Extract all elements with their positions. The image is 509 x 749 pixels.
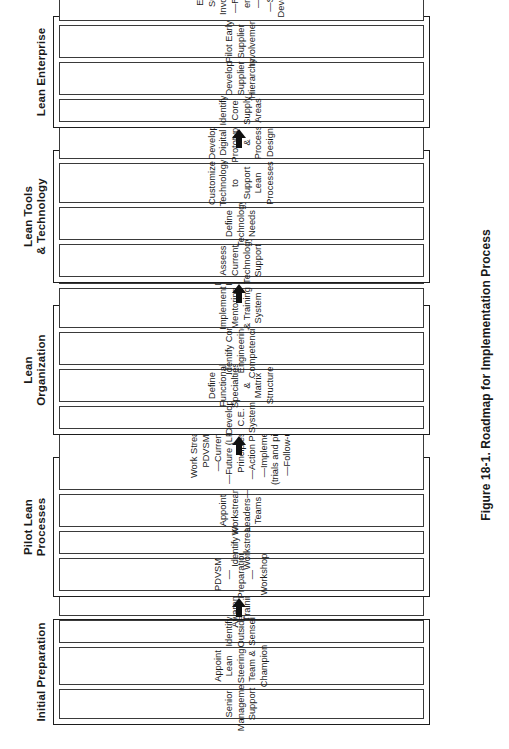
stage-label-lean-enterprise: Lean Enterprise bbox=[20, 16, 53, 128]
task-box[interactable]: Pilot Early Supplier Involvement bbox=[59, 25, 424, 58]
stage-pilot-lean-processes: Pilot Lean Processes PDVSM —Preparation … bbox=[20, 457, 430, 597]
stage-initial-preparation: Initial Preparation Senior Management Su… bbox=[20, 619, 430, 725]
task-box-label: Customize Technology to Support Lean Pro… bbox=[206, 159, 276, 206]
task-box[interactable]: Define Technology Needs bbox=[59, 207, 424, 240]
roadmap-figure: Initial Preparation Senior Management Su… bbox=[0, 0, 509, 749]
stage-panel-lean-tools-technology: Assess Current Technology Support Define… bbox=[53, 150, 430, 283]
flow-arrow-icon bbox=[34, 435, 444, 457]
task-box[interactable]: Senior Management Support bbox=[59, 689, 424, 719]
task-box-label: Pilot Early Supplier Involvement bbox=[224, 16, 259, 66]
stage-label-lean-organization: Lean Organization bbox=[20, 305, 53, 435]
task-box[interactable]: Identify Core Supply Areas bbox=[59, 99, 424, 122]
stage-panel-lean-organization: Develop C.E. System Define Functional Sp… bbox=[53, 305, 430, 435]
task-box-label: Expand Supplier Involvement —Resident en… bbox=[195, 0, 288, 17]
flow-arrow-icon bbox=[34, 283, 444, 305]
task-box-label: Appoint Lean Steering Team & Champion bbox=[212, 644, 270, 686]
task-box-label: Identify Core Supply Areas bbox=[218, 95, 264, 125]
figure-caption: Figure 18-1. Roadmap for Implementation … bbox=[471, 0, 501, 749]
stage-label-pilot-lean-processes: Pilot Lean Processes bbox=[20, 457, 53, 597]
task-box[interactable]: Appoint Workstream Leaders—Teams bbox=[59, 494, 424, 527]
task-box[interactable]: Assess Current Technology Support bbox=[59, 244, 424, 277]
stage-panel-lean-enterprise: Identify Core Supply Areas Develop Suppl… bbox=[53, 16, 430, 128]
stage-panel-pilot-lean-processes: PDVSM —Preparation —Workshop Identify Ke… bbox=[53, 457, 430, 597]
task-box[interactable]: Expand Supplier Involvement —Resident en… bbox=[59, 0, 424, 21]
task-box[interactable]: Appoint Lean Steering Team & Champion bbox=[59, 647, 424, 685]
stage-panel-initial-preparation: Senior Management Support Appoint Lean S… bbox=[53, 619, 430, 725]
task-box-label: Appoint Workstream Leaders—Teams bbox=[218, 485, 264, 535]
stage-label-initial-preparation: Initial Preparation bbox=[20, 619, 53, 725]
stage-lean-tools-technology: Lean Tools & Technology Assess Current T… bbox=[20, 150, 430, 283]
stage-lean-organization: Lean Organization Develop C.E. System De… bbox=[20, 305, 430, 435]
flow-arrow-icon bbox=[34, 128, 444, 150]
task-box[interactable]: Identify Core Engineering Competencies bbox=[59, 332, 424, 365]
roadmap-flow: Initial Preparation Senior Management Su… bbox=[20, 25, 430, 725]
flow-arrow-icon bbox=[34, 597, 444, 619]
figure-caption-text: Figure 18-1. Roadmap for Implementation … bbox=[479, 229, 493, 520]
stage-lean-enterprise: Lean Enterprise Identify Core Supply Are… bbox=[20, 16, 430, 128]
task-box[interactable]: Develop C.E. System bbox=[59, 406, 424, 429]
stage-label-lean-tools-technology: Lean Tools & Technology bbox=[20, 150, 53, 283]
task-box[interactable]: Customize Technology to Support Lean Pro… bbox=[59, 163, 424, 203]
task-box-label: Define Technology Needs bbox=[224, 199, 259, 246]
